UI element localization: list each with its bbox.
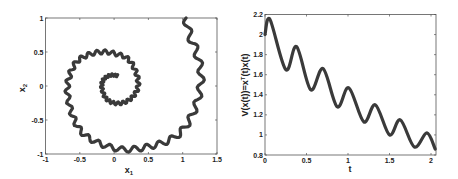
x-tick-label: 1 xyxy=(346,157,350,164)
y-tick-label: 1.6 xyxy=(253,71,263,78)
left-y-label: x2 xyxy=(17,83,28,92)
left-x-label: x1 xyxy=(125,165,134,176)
x-tick-label: 0 xyxy=(112,156,116,163)
y-tick-label: 1 xyxy=(259,131,263,138)
y-tick-label: 1 xyxy=(40,15,44,22)
y-tick-label: 2.2 xyxy=(253,11,263,18)
x-tick-label: 1.5 xyxy=(385,157,395,164)
x-tick-label: -0.5 xyxy=(74,156,86,163)
x-tick-label: 0.5 xyxy=(144,156,154,163)
x-tick-label: 0.5 xyxy=(302,157,312,164)
y-tick-label: 2 xyxy=(259,31,263,38)
y-tick-label: 0.5 xyxy=(34,49,44,56)
y-tick-label: 0.8 xyxy=(253,152,263,159)
figure: -1-0.500.511.5 -1-0.500.51 x1 x2 00.511.… xyxy=(0,0,458,179)
x-tick-label: 1.5 xyxy=(212,156,222,163)
left-x-ticks: -1-0.500.511.5 xyxy=(42,18,222,163)
right-x-label: t xyxy=(349,164,352,174)
right-axes-box xyxy=(265,15,436,156)
left-trajectory-curve xyxy=(65,18,204,152)
right-lyapunov-curve xyxy=(265,18,435,149)
y-tick-label: 0 xyxy=(40,83,44,90)
y-tick-label: 1.2 xyxy=(253,111,263,118)
right-y-label: V(x(t))=xT(t)x(t) xyxy=(240,54,250,117)
x-tick-label: 2 xyxy=(429,157,433,164)
y-tick-label: -1 xyxy=(37,151,43,158)
y-tick-label: 1.8 xyxy=(253,51,263,58)
y-tick-label: 1.4 xyxy=(253,91,263,98)
y-tick-label: -0.5 xyxy=(31,117,43,124)
left-plot: -1-0.500.511.5 -1-0.500.51 x1 x2 xyxy=(17,15,222,177)
x-tick-label: 0 xyxy=(263,157,267,164)
x-tick-label: 1 xyxy=(181,156,185,163)
left-axes-box xyxy=(46,18,218,154)
right-plot: 00.511.52 0.811.21.41.61.822.2 t V(x(t))… xyxy=(240,11,436,174)
